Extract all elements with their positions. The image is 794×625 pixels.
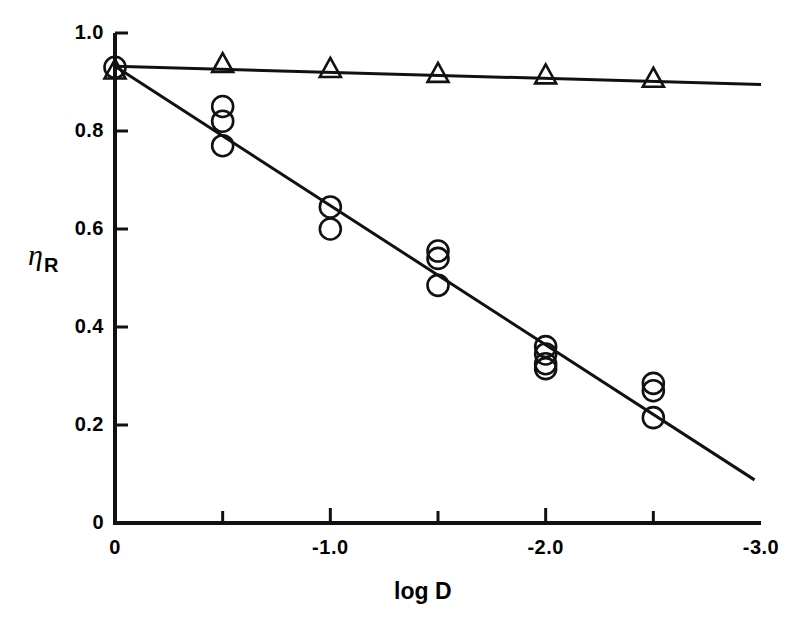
- data-point-triangle: [212, 53, 233, 72]
- y-axis-title-symbol: η: [28, 238, 43, 271]
- data-point-circle: [428, 275, 449, 296]
- data-point-triangle: [320, 58, 341, 77]
- data-point-circle: [535, 358, 556, 379]
- data-point-circle: [320, 219, 341, 240]
- y-tick-label: 0.8: [34, 119, 104, 142]
- y-axis-title-subscript: R: [44, 254, 58, 276]
- data-point-circle: [643, 407, 664, 428]
- data-point-circle: [212, 111, 233, 132]
- data-point-circle: [320, 196, 341, 217]
- x-tick-label: 0: [70, 536, 160, 559]
- plot-canvas: [0, 0, 794, 625]
- x-axis-title: log D: [394, 578, 452, 605]
- triangle-markers: [105, 53, 664, 87]
- data-point-triangle: [428, 63, 449, 82]
- data-point-triangle: [643, 68, 664, 87]
- x-tick-label: -2.0: [501, 536, 591, 559]
- data-point-circle: [643, 380, 664, 401]
- y-tick-label: 0.6: [34, 217, 104, 240]
- y-tick-label: 0.4: [34, 315, 104, 338]
- y-tick-label: 0.2: [34, 413, 104, 436]
- y-axis-title: ηR: [28, 238, 58, 277]
- x-tick-label: -1.0: [285, 536, 375, 559]
- x-tick-label: -3.0: [716, 536, 794, 559]
- x-axis-ticks: [223, 508, 654, 523]
- x-axis-title-text: log D: [394, 578, 452, 604]
- y-tick-label: 1.0: [34, 21, 104, 44]
- chart-figure: 1.00.80.60.40.20 0-1.0-2.0-3.0 ηR log D: [0, 0, 794, 625]
- data-point-circle: [105, 57, 126, 78]
- data-point-circle: [428, 248, 449, 269]
- data-point-triangle: [535, 64, 556, 83]
- y-tick-label: 0: [34, 511, 104, 534]
- data-point-circle: [212, 135, 233, 156]
